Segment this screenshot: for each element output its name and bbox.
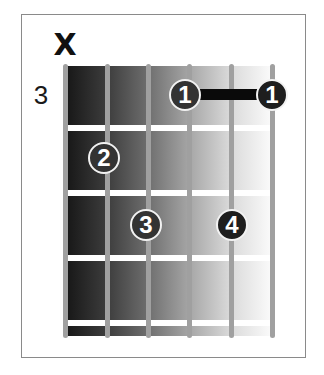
fret-line-1: [65, 125, 272, 131]
string-4: [146, 64, 151, 338]
fretboard-gradient: [65, 66, 272, 336]
finger-dot-1-string-3: 1: [169, 79, 201, 111]
finger-dot-2-string-5: 2: [88, 142, 120, 174]
fret-line-3: [65, 255, 272, 261]
finger-dot-1-string-1: 1: [256, 79, 288, 111]
string-2: [229, 64, 234, 338]
barre-bar: [198, 89, 258, 100]
fret-line-4: [65, 320, 272, 326]
string-5: [105, 64, 110, 338]
finger-dot-3-string-4: 3: [130, 209, 162, 241]
string-6: [63, 64, 68, 338]
finger-dot-4-string-2: 4: [216, 209, 248, 241]
mute-marker-string-6: X: [53, 30, 77, 60]
fret-line-2: [65, 190, 272, 196]
starting-fret-label: 3: [30, 81, 52, 109]
